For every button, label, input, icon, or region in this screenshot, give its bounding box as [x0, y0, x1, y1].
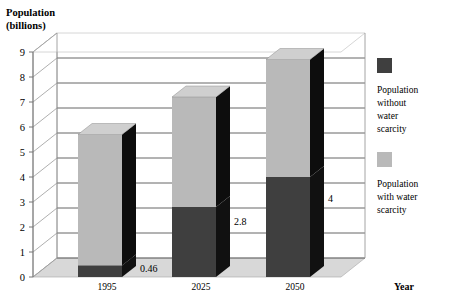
bar-2050-segment-with-scarcity-face	[266, 60, 310, 178]
data-label-2025-without-scarcity: 2.8	[234, 216, 247, 227]
legend-label-with-scarcity-line1: Population	[377, 179, 418, 189]
bar-group-2050	[266, 49, 324, 278]
bar-2025-segment-without-scarcity-face	[172, 207, 216, 277]
y-tick-label-4: 4	[20, 172, 26, 183]
data-label-1995-without-scarcity: 0.46	[140, 263, 158, 274]
plot-left-depth-panel	[33, 33, 57, 277]
y-axis-title-line2: (billions)	[6, 20, 46, 32]
bar-2025-segment-with-scarcity-face	[172, 97, 216, 207]
bar-group-2025	[172, 86, 230, 277]
y-tick-label-2: 2	[20, 222, 25, 233]
x-category-label-2050: 2050	[286, 282, 305, 292]
y-tick-label-9: 9	[20, 47, 25, 58]
x-category-label-2025: 2025	[192, 282, 211, 292]
y-tick-marks	[29, 52, 33, 277]
legend-label-with-scarcity-line2: with water	[377, 192, 418, 202]
legend: Population without water scarcity Popula…	[377, 58, 418, 215]
x-axis-title: Year	[394, 281, 415, 292]
data-label-2050-without-scarcity: 4	[328, 193, 333, 204]
y-tick-label-5: 5	[20, 147, 25, 158]
bar-1995-segment-with-scarcity-face	[78, 135, 122, 266]
bar-1995-segment-with-scarcity-side	[122, 124, 136, 266]
legend-swatch-without-scarcity	[377, 58, 392, 73]
legend-swatch-with-scarcity	[377, 152, 392, 167]
population-water-scarcity-chart: 0 1 2 3 4 5 6 7 8 9 Population (billions…	[0, 0, 458, 299]
bar-2050-segment-with-scarcity-side	[310, 49, 324, 178]
bar-group-1995	[78, 124, 136, 278]
legend-label-without-scarcity-line1: Population	[377, 85, 418, 95]
y-tick-label-1: 1	[20, 247, 25, 258]
bar-2050-segment-without-scarcity-side	[310, 166, 324, 277]
x-category-label-1995: 1995	[98, 282, 117, 292]
bar-2050-segment-without-scarcity-face	[266, 177, 310, 277]
y-tick-label-8: 8	[20, 72, 25, 83]
chart-svg: 0 1 2 3 4 5 6 7 8 9 Population (billions…	[0, 0, 458, 299]
y-tick-label-3: 3	[20, 197, 25, 208]
legend-label-without-scarcity-line4: scarcity	[377, 124, 407, 134]
y-tick-label-0: 0	[20, 272, 25, 283]
bar-2025-segment-without-scarcity-side	[216, 196, 230, 277]
legend-label-without-scarcity-line2: without	[377, 98, 406, 108]
y-tick-label-7: 7	[20, 97, 25, 108]
bar-2025-segment-with-scarcity-side	[216, 86, 230, 207]
y-tick-label-6: 6	[20, 122, 25, 133]
bar-1995-segment-without-scarcity-face	[78, 266, 122, 278]
legend-label-without-scarcity-line3: water	[377, 111, 399, 121]
legend-label-with-scarcity-line3: scarcity	[377, 205, 407, 215]
y-axis-title-line1: Population	[6, 7, 55, 18]
